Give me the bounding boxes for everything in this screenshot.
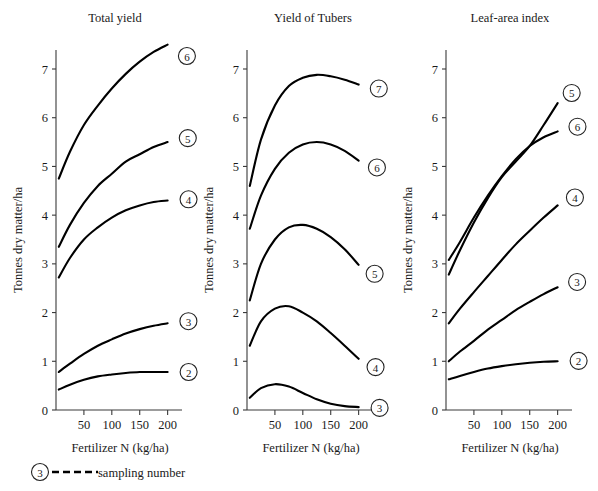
marker-label-2: 2 bbox=[576, 355, 582, 367]
marker-label-3: 3 bbox=[377, 402, 383, 414]
series-curve-5 bbox=[449, 103, 558, 274]
x-tick-label-50: 50 bbox=[269, 418, 282, 432]
x-axis-title-3: Fertilizer N (kg/ha) bbox=[461, 441, 558, 455]
legend-marker-label: 3 bbox=[37, 467, 43, 479]
y-tick-label-1: 1 bbox=[42, 355, 48, 369]
marker-label-4: 4 bbox=[572, 192, 578, 204]
legend: 3sampling number bbox=[32, 464, 186, 481]
x-tick-label-200: 200 bbox=[158, 418, 177, 432]
marker-label-4: 4 bbox=[186, 194, 192, 206]
x-tick-label-150: 150 bbox=[130, 418, 149, 432]
series-marker-5: 5 bbox=[179, 130, 196, 147]
series-marker-6: 6 bbox=[569, 118, 586, 135]
series-marker-2: 2 bbox=[180, 364, 197, 381]
series-marker-3: 3 bbox=[180, 313, 197, 330]
x-tick-label-100: 100 bbox=[102, 418, 121, 432]
series-marker-5: 5 bbox=[563, 84, 580, 101]
y-tick-label-6: 6 bbox=[233, 111, 239, 125]
marker-label-6: 6 bbox=[184, 51, 190, 63]
y-tick-label-1: 1 bbox=[432, 355, 438, 369]
y-axis-title-3: Tonnes dry matter/ha bbox=[401, 187, 415, 293]
series-curve-4 bbox=[250, 306, 359, 359]
series-marker-5: 5 bbox=[366, 265, 383, 282]
x-axis-title-1: Fertilizer N (kg/ha) bbox=[71, 441, 168, 455]
y-tick-label-3: 3 bbox=[432, 257, 438, 271]
series-curve-5 bbox=[59, 142, 168, 247]
y-tick-label-2: 2 bbox=[233, 306, 239, 320]
figure-container: Total yield0123456750100150200Fertilizer… bbox=[0, 0, 598, 491]
y-axis-title-1: Tonnes dry matter/ha bbox=[11, 187, 25, 293]
y-tick-label-0: 0 bbox=[432, 404, 438, 418]
marker-label-4: 4 bbox=[373, 362, 379, 374]
x-tick-label-150: 150 bbox=[520, 418, 539, 432]
marker-label-2: 2 bbox=[186, 367, 192, 379]
series-marker-3: 3 bbox=[371, 399, 388, 416]
y-tick-label-2: 2 bbox=[42, 306, 48, 320]
chart-panel-1: Total yield0123456750100150200Fertilizer… bbox=[11, 11, 197, 455]
y-tick-label-6: 6 bbox=[42, 111, 48, 125]
y-tick-label-5: 5 bbox=[432, 160, 438, 174]
marker-label-5: 5 bbox=[569, 87, 575, 99]
series-marker-4: 4 bbox=[566, 189, 583, 206]
series-curve-6 bbox=[250, 142, 359, 229]
marker-label-3: 3 bbox=[186, 316, 192, 328]
series-curve-6 bbox=[59, 45, 168, 179]
marker-label-6: 6 bbox=[575, 121, 581, 133]
x-tick-label-200: 200 bbox=[548, 418, 567, 432]
series-curve-2 bbox=[449, 361, 558, 379]
x-tick-label-50: 50 bbox=[78, 418, 91, 432]
panel-title-1: Total yield bbox=[88, 11, 142, 25]
series-marker-7: 7 bbox=[370, 80, 387, 97]
legend-label: sampling number bbox=[98, 466, 186, 480]
y-tick-label-0: 0 bbox=[42, 404, 48, 418]
x-tick-label-50: 50 bbox=[468, 418, 481, 432]
panel-title-2: Yield of Tubers bbox=[274, 11, 352, 25]
series-marker-3: 3 bbox=[569, 273, 586, 290]
marker-label-5: 5 bbox=[372, 268, 378, 280]
marker-label-7: 7 bbox=[376, 83, 382, 95]
y-tick-label-1: 1 bbox=[233, 355, 239, 369]
series-curve-5 bbox=[250, 225, 359, 301]
series-marker-4: 4 bbox=[367, 359, 384, 376]
series-curve-3 bbox=[59, 323, 168, 372]
marker-label-3: 3 bbox=[574, 276, 580, 288]
y-tick-label-3: 3 bbox=[42, 257, 48, 271]
series-marker-2: 2 bbox=[570, 352, 587, 369]
series-marker-4: 4 bbox=[180, 191, 197, 208]
y-tick-label-0: 0 bbox=[233, 404, 239, 418]
series-curve-3 bbox=[250, 384, 359, 407]
y-tick-label-5: 5 bbox=[233, 160, 239, 174]
y-tick-label-6: 6 bbox=[432, 111, 438, 125]
x-tick-label-100: 100 bbox=[492, 418, 511, 432]
y-tick-label-4: 4 bbox=[42, 209, 49, 223]
chart-panel-2: Yield of Tubers0123456750100150200Fertil… bbox=[202, 11, 388, 455]
series-curve-4 bbox=[59, 201, 168, 278]
x-tick-label-100: 100 bbox=[293, 418, 312, 432]
series-marker-6: 6 bbox=[178, 48, 195, 65]
y-tick-label-5: 5 bbox=[42, 160, 48, 174]
series-curve-4 bbox=[449, 205, 558, 323]
marker-label-5: 5 bbox=[185, 133, 191, 145]
chart-panel-3: Leaf-area index0123456750100150200Fertil… bbox=[401, 11, 587, 455]
y-tick-label-7: 7 bbox=[42, 63, 48, 77]
y-tick-label-7: 7 bbox=[233, 63, 239, 77]
x-axis-title-2: Fertilizer N (kg/ha) bbox=[262, 441, 359, 455]
y-tick-label-4: 4 bbox=[432, 209, 439, 223]
series-curve-3 bbox=[449, 287, 558, 361]
x-tick-label-200: 200 bbox=[349, 418, 368, 432]
y-tick-label-7: 7 bbox=[432, 63, 438, 77]
y-axis-title-2: Tonnes dry matter/ha bbox=[202, 187, 216, 293]
y-tick-label-3: 3 bbox=[233, 257, 239, 271]
panel-title-3: Leaf-area index bbox=[471, 11, 551, 25]
series-curve-2 bbox=[59, 372, 168, 390]
series-marker-6: 6 bbox=[368, 159, 385, 176]
y-tick-label-2: 2 bbox=[432, 306, 438, 320]
y-tick-label-4: 4 bbox=[233, 209, 240, 223]
series-curve-7 bbox=[250, 75, 359, 186]
x-tick-label-150: 150 bbox=[321, 418, 340, 432]
marker-label-6: 6 bbox=[374, 162, 380, 174]
